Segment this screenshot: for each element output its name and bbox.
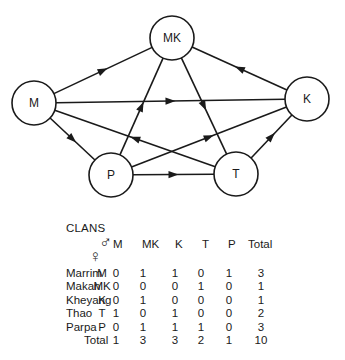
- cell-value: 0: [133, 280, 153, 293]
- female-symbol-icon: ♀: [89, 248, 102, 265]
- cell-value: 0: [106, 294, 126, 307]
- column-header-mk: MK: [142, 238, 159, 251]
- column-header-p: P: [228, 238, 236, 251]
- cell-value: 1: [165, 307, 185, 320]
- column-header-k: K: [175, 238, 183, 251]
- cell-value: 1: [133, 294, 153, 307]
- cell-value: 1: [133, 321, 153, 334]
- clans-table: CLANS ♂ ♀ M MK K T P Total MarrimM011013…: [0, 0, 345, 360]
- cell-value: 3: [251, 321, 271, 334]
- total-value: 3: [165, 334, 185, 347]
- cell-value: 3: [251, 267, 271, 280]
- cell-value: 0: [106, 321, 126, 334]
- cell-value: 2: [251, 307, 271, 320]
- cell-value: 0: [219, 307, 239, 320]
- total-value: 1: [219, 334, 239, 347]
- cell-value: 0: [191, 267, 211, 280]
- total-value: 1: [106, 334, 126, 347]
- cell-value: 1: [165, 267, 185, 280]
- column-header-total: Total: [248, 238, 272, 251]
- cell-value: 0: [191, 294, 211, 307]
- total-value: 2: [191, 334, 211, 347]
- total-label: Total: [84, 334, 108, 347]
- cell-value: 1: [251, 294, 271, 307]
- total-value: 10: [251, 334, 271, 347]
- cell-value: 0: [106, 280, 126, 293]
- cell-value: 1: [191, 280, 211, 293]
- cell-value: 0: [106, 267, 126, 280]
- cell-value: 1: [251, 280, 271, 293]
- total-value: 3: [133, 334, 153, 347]
- cell-value: 1: [106, 307, 126, 320]
- cell-value: 0: [165, 280, 185, 293]
- cell-value: 0: [191, 307, 211, 320]
- column-header-m: M: [113, 238, 123, 251]
- cell-value: 0: [219, 294, 239, 307]
- cell-value: 1: [133, 267, 153, 280]
- cell-value: 0: [219, 280, 239, 293]
- cell-value: 1: [191, 321, 211, 334]
- cell-value: 1: [219, 267, 239, 280]
- cell-value: 1: [165, 321, 185, 334]
- cell-value: 0: [165, 294, 185, 307]
- cell-value: 0: [219, 321, 239, 334]
- column-header-t: T: [202, 238, 209, 251]
- cell-value: 0: [133, 307, 153, 320]
